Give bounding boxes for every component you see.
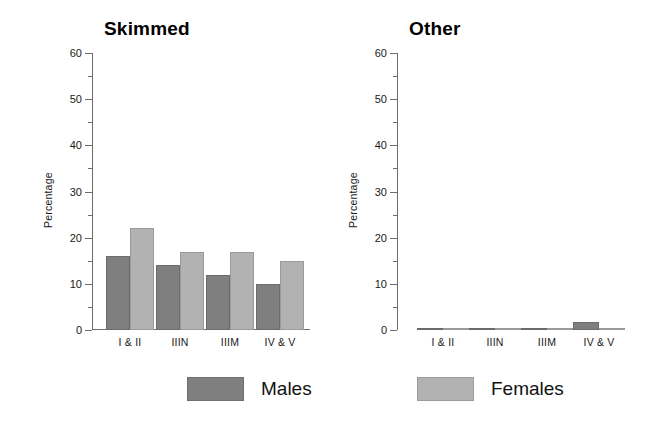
- bar-skimmed-females-2[interactable]: [230, 252, 254, 330]
- y-axis-label-skimmed: Percentage: [42, 172, 54, 228]
- y-tick-minor-5: [88, 307, 92, 308]
- x-ticklabel-other-2: IIIM: [521, 336, 573, 348]
- y-tick-30: [85, 192, 92, 193]
- bar-skimmed-females-1[interactable]: [180, 252, 204, 330]
- x-ticklabel-other-0: I & II: [417, 336, 469, 348]
- y-tick-minor-55: [88, 76, 92, 77]
- legend-swatch-females: [417, 377, 474, 401]
- y-ticklabel-40: 40: [375, 139, 387, 151]
- bar-group-other-2: IIIM: [521, 53, 573, 330]
- y-ticklabel-50: 50: [70, 93, 82, 105]
- y-tick-40: [390, 145, 397, 146]
- y-tick-minor-5: [393, 307, 397, 308]
- legend-entry-females[interactable]: Females: [417, 372, 564, 406]
- y-tick-20: [390, 238, 397, 239]
- y-tick-minor-35: [393, 168, 397, 169]
- bar-other-males-2[interactable]: [521, 328, 547, 330]
- y-tick-50: [390, 99, 397, 100]
- bar-skimmed-males-2[interactable]: [206, 275, 230, 330]
- y-ticklabel-60: 60: [70, 47, 82, 59]
- x-ticklabel-skimmed-3: IV & V: [256, 336, 304, 348]
- y-ticklabel-0: 0: [381, 324, 387, 336]
- x-ticklabel-skimmed-2: IIIM: [206, 336, 254, 348]
- y-tick-minor-55: [393, 76, 397, 77]
- bar-other-females-3[interactable]: [599, 328, 625, 330]
- panel-title-skimmed: Skimmed: [104, 18, 190, 40]
- x-ticklabel-skimmed-1: IIIN: [156, 336, 204, 348]
- y-axis-label-other: Percentage: [347, 172, 359, 228]
- chart-panel-skimmed: Skimmed Percentage 60 50 40 30 20 10: [0, 0, 330, 360]
- bar-skimmed-females-3[interactable]: [280, 261, 304, 330]
- bar-skimmed-males-3[interactable]: [256, 284, 280, 330]
- y-tick-0: [390, 330, 397, 331]
- y-tick-10: [85, 284, 92, 285]
- y-axis-spine: [92, 53, 93, 330]
- y-ticklabel-30: 30: [70, 186, 82, 198]
- bar-skimmed-males-0[interactable]: [106, 256, 130, 330]
- y-ticklabel-60: 60: [375, 47, 387, 59]
- y-tick-minor-45: [393, 122, 397, 123]
- y-tick-60: [85, 53, 92, 54]
- bar-group-skimmed-2: IIIM: [206, 53, 254, 330]
- y-tick-minor-25: [88, 215, 92, 216]
- bar-group-other-0: I & II: [417, 53, 469, 330]
- y-axis-spine: [397, 53, 398, 330]
- bar-group-other-1: IIIN: [469, 53, 521, 330]
- bar-group-skimmed-1: IIIN: [156, 53, 204, 330]
- y-tick-60: [390, 53, 397, 54]
- legend: Males Females: [0, 372, 660, 412]
- bar-group-other-3: IV & V: [573, 53, 625, 330]
- bar-skimmed-males-1[interactable]: [156, 265, 180, 330]
- y-tick-10: [390, 284, 397, 285]
- y-ticklabel-20: 20: [375, 232, 387, 244]
- bar-other-males-1[interactable]: [469, 328, 495, 330]
- y-tick-50: [85, 99, 92, 100]
- y-ticklabel-30: 30: [375, 186, 387, 198]
- y-tick-minor-35: [88, 168, 92, 169]
- y-tick-minor-45: [88, 122, 92, 123]
- y-ticklabel-10: 10: [70, 278, 82, 290]
- plot-area-other: 60 50 40 30 20 10 0 I & II: [397, 53, 625, 330]
- y-tick-0: [85, 330, 92, 331]
- bar-other-females-1[interactable]: [495, 328, 521, 330]
- bar-group-skimmed-0: I & II: [106, 53, 154, 330]
- y-tick-minor-15: [393, 261, 397, 262]
- bar-other-males-3[interactable]: [573, 322, 599, 330]
- chart-panel-other: Other Percentage 60 50 40 30 20 10 0: [305, 0, 650, 360]
- legend-label-females: Females: [491, 378, 564, 400]
- bar-skimmed-females-0[interactable]: [130, 228, 154, 330]
- y-tick-minor-15: [88, 261, 92, 262]
- y-tick-40: [85, 145, 92, 146]
- legend-swatch-males: [187, 377, 244, 401]
- y-ticklabel-50: 50: [375, 93, 387, 105]
- y-ticklabel-20: 20: [70, 232, 82, 244]
- bar-group-skimmed-3: IV & V: [256, 53, 304, 330]
- y-tick-minor-25: [393, 215, 397, 216]
- y-tick-30: [390, 192, 397, 193]
- x-ticklabel-skimmed-0: I & II: [106, 336, 154, 348]
- figure: Skimmed Percentage 60 50 40 30 20 10: [0, 0, 660, 435]
- bar-other-males-0[interactable]: [417, 328, 443, 330]
- y-ticklabel-40: 40: [70, 139, 82, 151]
- x-ticklabel-other-3: IV & V: [573, 336, 625, 348]
- legend-label-males: Males: [261, 378, 312, 400]
- y-tick-20: [85, 238, 92, 239]
- plot-area-skimmed: 60 50 40 30 20 10 0 I & II: [92, 53, 310, 330]
- bar-other-females-2[interactable]: [547, 328, 573, 330]
- panel-title-other: Other: [409, 18, 461, 40]
- legend-entry-males[interactable]: Males: [187, 372, 312, 406]
- y-ticklabel-0: 0: [76, 324, 82, 336]
- bar-other-females-0[interactable]: [443, 328, 469, 330]
- x-ticklabel-other-1: IIIN: [469, 336, 521, 348]
- y-ticklabel-10: 10: [375, 278, 387, 290]
